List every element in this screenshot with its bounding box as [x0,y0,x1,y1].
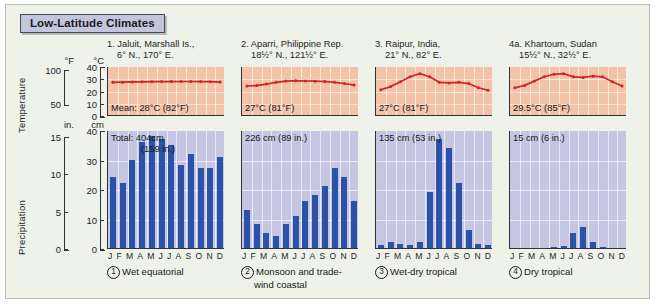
prec-cm-tickmark [100,249,104,250]
climate-panel: 3. Raipur, India,21° N., 82° E.27°C (81°… [375,5,499,300]
month-tick-label: M [260,251,267,261]
month-tick-label: J [510,251,514,261]
month-tick-label: J [108,251,112,261]
month-tick-label: J [569,251,573,261]
month-tick-label: M [528,251,535,261]
precipitation-bars [510,131,626,248]
caption-text: Monsoon and trade- [256,266,342,277]
precipitation-bar [407,245,413,248]
precipitation-bar [378,245,384,248]
precipitation-bar [466,230,472,248]
temp-c-tick: 10 [86,98,97,109]
month-tick-label: J [561,251,565,261]
prec-in-tickmark [64,249,68,250]
precipitation-bar [551,247,557,248]
prec-cm-tickmark [100,131,104,132]
precipitation-centimeters-scale: 403020100 [68,131,104,249]
prec-cm-tickmark [100,220,104,221]
temperature-plot: 29.5°C (85°F) [509,67,626,116]
precipitation-bar [129,160,135,249]
precipitation-bar [388,242,394,248]
month-tick-label: D [217,251,223,261]
mean-temperature-label: 29.5°C (85°F) [513,103,570,113]
precipitation-bar [159,139,165,248]
prec-cm-tick: 20 [86,185,97,196]
prec-cm-bracket [100,131,105,251]
temp-c-bracket [100,67,105,118]
precipitation-plot: 226 cm (89 in.) [241,131,358,249]
station-header: 2. Aparri, Philippine Rep.18½° N., 121½°… [241,39,365,62]
station-name: 3. Raipur, India, [375,39,499,50]
precipitation-bar [417,242,423,248]
month-tick-label: A [539,251,545,261]
prec-cm-tick: 0 [92,244,97,255]
precipitation-bar [244,210,250,248]
precipitation-bar [254,224,260,248]
precipitation-bar [341,177,347,248]
caption-text: Wet equatorial [122,266,184,277]
precipitation-bar [110,177,116,248]
prec-cm-tick: 30 [86,155,97,166]
temperature-axis-label: Temperature [16,77,27,133]
month-tick-label: A [578,251,584,261]
station-name: 1. Jaluit, Marshall Is., [107,39,231,50]
month-tick-label: N [340,251,346,261]
precipitation-bar [293,216,299,248]
precipitation-plot: 135 cm (53 in.) [375,131,492,249]
precipitation-bar [570,233,576,248]
caption-number-badge: 2 [241,266,254,279]
precipitation-bar [397,244,403,248]
month-tick-label: J [427,251,431,261]
month-tick-label: D [619,251,625,261]
precipitation-bar [446,148,452,248]
month-tick-label: J [159,251,163,261]
month-tick-label: O [463,251,470,261]
month-axis: JFMAMJJASOND [375,251,492,261]
month-tick-label: O [329,251,336,261]
temp-c-tick: 0 [92,111,97,122]
mean-temperature-label: Mean: 28°C (82°F) [111,103,189,113]
prec-cm-tick: 10 [86,214,97,225]
caption-number-badge: 3 [375,266,388,279]
prec-cm-tick: 40 [86,126,97,137]
temperature-plot: 27°C (81°F) [375,67,492,116]
total-precipitation-primary: 226 cm (89 in.) [245,133,307,143]
temp-c-tickmark [100,116,104,117]
precipitation-inches-scale: 151050 [34,131,68,249]
month-tick-label: S [186,251,192,261]
precipitation-bar [580,227,586,248]
month-axis: JFMAMJJASOND [107,251,224,261]
station-name: 2. Aparri, Philippine Rep. [241,39,365,50]
month-tick-label: F [519,251,524,261]
month-tick-label: J [435,251,439,261]
precipitation-bar [302,201,308,248]
precipitation-bar [351,201,357,248]
precipitation-bar [198,168,204,248]
precipitation-bar [436,139,442,248]
month-tick-label: A [444,251,450,261]
month-tick-label: F [385,251,390,261]
caption-text: Dry tropical [524,266,573,277]
panel-caption: 3Wet-dry tropical [375,266,499,279]
station-header: 3. Raipur, India,21° N., 82° E. [375,39,499,62]
temperature-plot: Mean: 28°C (82°F) [107,67,224,116]
total-precipitation-secondary: (159 in.) [111,144,175,155]
month-tick-label: D [485,251,491,261]
precipitation-bar [263,233,269,248]
total-precipitation-label: Total: 404cm(159 in.) [111,133,175,155]
climate-figure: Low-Latitude Climates Temperature Precip… [5,4,650,299]
caption-number-badge: 4 [509,266,522,279]
precipitation-bar [207,168,213,248]
precipitation-bar [456,183,462,248]
month-tick-label: A [310,251,316,261]
prec-in-tick: 15 [50,131,61,142]
prec-in-tick: 10 [50,169,61,180]
total-precipitation-primary: Total: 404cm [111,133,164,143]
month-tick-label: S [320,251,326,261]
temp-c-tick: 20 [86,86,97,97]
month-tick-label: M [394,251,401,261]
climate-panel: 2. Aparri, Philippine Rep.18½° N., 121½°… [241,5,365,300]
caption-number-badge: 1 [107,266,120,279]
month-axis: JFMAMJJASOND [241,251,358,261]
temp-f-tick: 50 [50,98,61,109]
